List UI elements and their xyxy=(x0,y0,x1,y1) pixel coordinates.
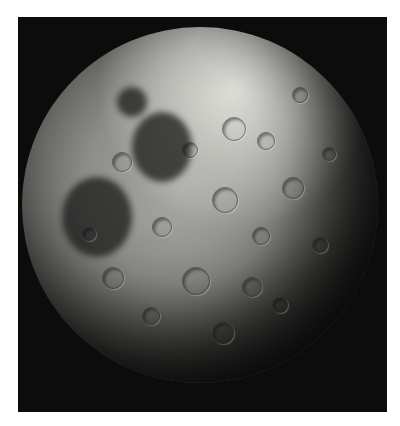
crater xyxy=(242,277,262,297)
crater xyxy=(292,87,308,103)
photo-frame xyxy=(18,17,387,412)
crater xyxy=(182,267,210,295)
moon-disc xyxy=(22,27,378,383)
crater xyxy=(142,307,160,325)
crater xyxy=(152,217,172,237)
crater xyxy=(272,297,288,313)
mare-dark-mare-small xyxy=(117,87,147,117)
crater xyxy=(257,132,275,150)
mare-dark-mare-left xyxy=(62,177,132,257)
crater xyxy=(222,117,246,141)
crater xyxy=(102,267,124,289)
crater xyxy=(112,152,132,172)
crater xyxy=(182,142,198,158)
crater xyxy=(312,237,328,253)
crater xyxy=(282,177,304,199)
crater xyxy=(212,187,238,213)
crater xyxy=(322,147,336,161)
crater xyxy=(212,322,234,344)
crater xyxy=(252,227,270,245)
crater xyxy=(82,227,96,241)
